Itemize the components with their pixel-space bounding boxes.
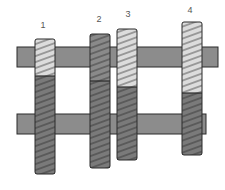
gear-label: 3 bbox=[125, 9, 130, 19]
gear-teeth-hatching bbox=[90, 34, 110, 168]
gear-label: 1 bbox=[40, 20, 45, 30]
gear-diagram: 1234 bbox=[0, 0, 225, 190]
gear-1 bbox=[35, 39, 55, 174]
gear-2 bbox=[90, 34, 110, 168]
gear-label: 4 bbox=[187, 5, 192, 15]
gear-teeth-hatching bbox=[35, 39, 55, 174]
gear-label: 2 bbox=[96, 14, 101, 24]
gear-4 bbox=[182, 22, 202, 155]
gear-teeth-hatching bbox=[117, 29, 137, 160]
gear-3 bbox=[117, 29, 137, 160]
gear-teeth-hatching bbox=[182, 22, 202, 155]
